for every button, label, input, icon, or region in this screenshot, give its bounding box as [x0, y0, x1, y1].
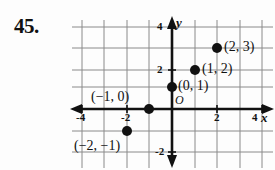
xtick-label-4: 4 — [252, 111, 258, 123]
point-label-n1-0: (−1, 0) — [91, 89, 129, 105]
xtick-label-neg4: -4 — [76, 111, 85, 123]
point-label-n2-n1: (−2, −1) — [74, 138, 120, 154]
point-label-0-1: (0, 1) — [178, 78, 208, 94]
point-n1-0 — [144, 104, 154, 114]
ytick-label-neg2: -2 — [155, 145, 164, 157]
coordinate-plane-figure: 45. — [0, 0, 275, 170]
xtick-label-neg2: -2 — [121, 111, 130, 123]
point-label-1-2: (1, 2) — [202, 61, 232, 77]
ytick-label-2: 2 — [157, 63, 163, 75]
point-n2-n1 — [122, 126, 132, 136]
x-axis-label: x — [261, 110, 268, 126]
point-0-1 — [167, 82, 177, 92]
point-label-2-3: (2, 3) — [224, 39, 254, 55]
xtick-label-2: 2 — [214, 111, 220, 123]
point-1-2 — [190, 65, 200, 75]
graph-svg — [0, 0, 275, 170]
ytick-label-4: 4 — [157, 20, 163, 32]
origin-label: O — [175, 93, 184, 108]
point-2-3 — [212, 43, 222, 53]
y-axis-label: y — [176, 15, 182, 31]
